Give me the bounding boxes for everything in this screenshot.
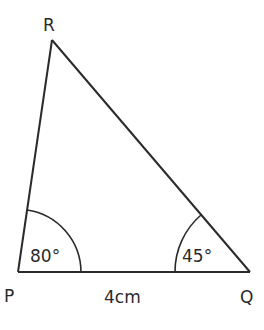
angle-label-p: 80°	[30, 246, 60, 266]
side-label-pq: 4cm	[104, 287, 141, 307]
vertex-label-r: R	[43, 15, 55, 35]
side-qr	[52, 40, 250, 272]
vertex-label-q: Q	[240, 287, 253, 307]
triangle-diagram: R P Q 80° 45° 4cm	[0, 0, 264, 330]
angle-label-q: 45°	[182, 246, 212, 266]
side-pr	[18, 40, 52, 272]
vertex-label-p: P	[4, 286, 14, 306]
